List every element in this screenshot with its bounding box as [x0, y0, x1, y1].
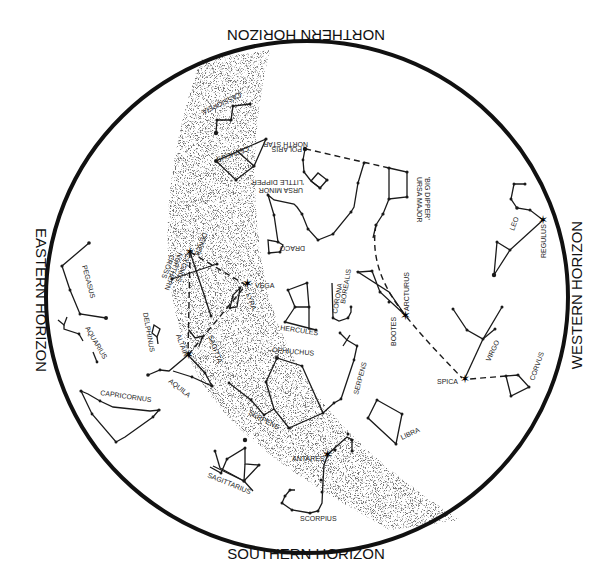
hercules: HERCULES — [280, 282, 319, 337]
delphinus: DELPHINUS — [142, 312, 160, 353]
svg-text:ARCTURUS: ARCTURUS — [403, 272, 410, 311]
spica-star-icon: ✶ — [460, 372, 470, 386]
svg-text:PEGASUS: PEGASUS — [81, 264, 97, 299]
leo: LEO REGULUS ✶ — [492, 183, 548, 278]
svg-text:SERPENS: SERPENS — [352, 361, 368, 395]
svg-text:BOOTES: BOOTES — [390, 316, 397, 346]
corvus: CORVUS — [470, 351, 545, 398]
svg-text:URSA MAJOR: URSA MAJOR — [416, 177, 423, 223]
libra: LIBRA — [367, 399, 422, 446]
svg-text:CAPRICORNUS: CAPRICORNUS — [100, 389, 153, 403]
svg-text:LIBRA: LIBRA — [399, 426, 421, 441]
northern-horizon-label: NORTHERN HORIZON — [227, 27, 385, 44]
sagittarius: SAGITTARIUS — [207, 438, 261, 496]
regulus-star-icon: ✶ — [538, 213, 548, 227]
svg-text:VEGA: VEGA — [255, 282, 275, 289]
svg-text:'BIG DIPPER': 'BIG DIPPER' — [424, 177, 431, 220]
svg-text:DRACO: DRACO — [279, 245, 305, 252]
star-chart: NORTHERN HORIZON SOUTHERN HORIZON EASTER… — [0, 0, 611, 577]
svg-text:ANTARES: ANTARES — [292, 455, 325, 462]
svg-text:VIRGO: VIRGO — [485, 339, 501, 363]
svg-text:SCORPIUS: SCORPIUS — [300, 515, 337, 522]
svg-text:DELPHINUS: DELPHINUS — [142, 312, 156, 353]
bootes: ✶ BOOTES ARCTURUS — [357, 225, 463, 378]
virgo: VIRGO ✶ SPICA — [437, 306, 504, 387]
svg-text:HERCULES: HERCULES — [280, 324, 319, 336]
svg-text:SPICA: SPICA — [437, 378, 458, 385]
svg-text:LEO: LEO — [508, 215, 520, 231]
svg-text:CORVUS: CORVUS — [528, 351, 545, 382]
aquarius: AQUARIUS — [58, 317, 109, 363]
svg-text:AQUARIUS: AQUARIUS — [83, 325, 108, 361]
pegasus: PEGASUS — [60, 241, 108, 320]
ursa-major: URSA MAJOR 'BIG DIPPER' — [306, 149, 431, 238]
svg-text:AQUILA: AQUILA — [167, 377, 192, 399]
southern-horizon-label: SOUTHERN HORIZON — [227, 545, 385, 562]
corona-borealis: CORONA BOREALIS — [331, 268, 352, 321]
western-horizon-label: WESTERN HORIZON — [568, 221, 585, 369]
svg-text:REGULUS: REGULUS — [540, 224, 547, 258]
svg-text:'LITTLE DIPPER': 'LITTLE DIPPER' — [250, 179, 304, 186]
eastern-horizon-label: EASTERN HORIZON — [33, 228, 50, 372]
svg-text:NORTH STAR: NORTH STAR — [263, 141, 308, 148]
capricornus: CAPRICORNUS — [79, 389, 160, 443]
svg-text:URSA MINOR: URSA MINOR — [259, 187, 303, 194]
